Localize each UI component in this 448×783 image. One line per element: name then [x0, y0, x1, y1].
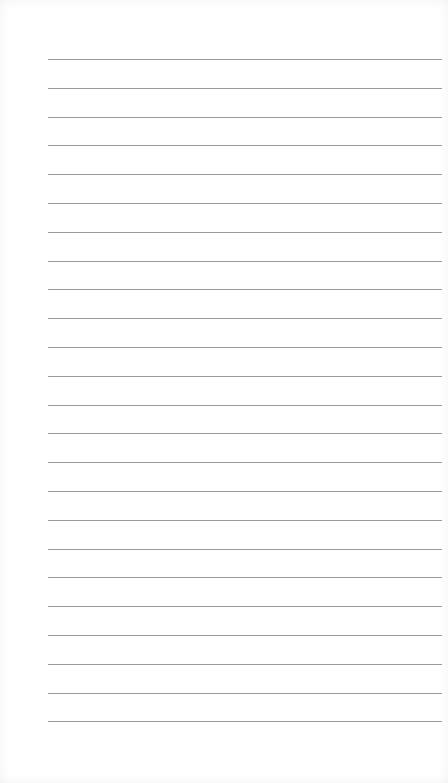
ruled-line — [48, 664, 442, 665]
ruled-line — [48, 318, 442, 319]
ruled-line — [48, 261, 442, 262]
ruled-line — [48, 549, 442, 550]
ruled-line — [48, 203, 442, 204]
ruled-line — [48, 405, 442, 406]
ruled-line — [48, 577, 442, 578]
lined-paper-sheet — [0, 0, 448, 783]
ruled-line — [48, 347, 442, 348]
ruled-line — [48, 635, 442, 636]
ruled-line — [48, 289, 442, 290]
ruled-line — [48, 491, 442, 492]
ruled-line — [48, 174, 442, 175]
ruled-line — [48, 721, 442, 722]
ruled-line — [48, 462, 442, 463]
ruled-line — [48, 520, 442, 521]
ruled-line — [48, 376, 442, 377]
ruled-line — [48, 693, 442, 694]
ruled-line — [48, 433, 442, 434]
ruled-line — [48, 232, 442, 233]
ruled-line — [48, 606, 442, 607]
ruled-line — [48, 88, 442, 89]
ruled-line — [48, 145, 442, 146]
ruled-line — [48, 117, 442, 118]
ruled-line — [48, 59, 442, 60]
